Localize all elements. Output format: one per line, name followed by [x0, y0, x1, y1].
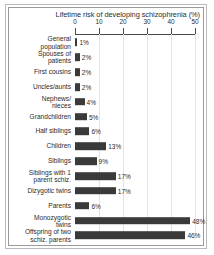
bar: [75, 128, 89, 136]
bar-row: Grandchildren5%: [75, 109, 195, 124]
bar-value-label: 17%: [118, 173, 131, 180]
category-label: Siblings: [9, 158, 71, 165]
bar: [75, 217, 190, 225]
bar-row: Spouses of patients2%: [75, 50, 195, 65]
bar-value-label: 17%: [118, 187, 131, 194]
bar-value-label: 48%: [192, 217, 205, 224]
category-label: General population: [9, 35, 71, 49]
bar: [75, 53, 80, 61]
category-label: Offspring of two schiz. parents: [9, 228, 71, 242]
category-label: Siblings with 1 parent schiz.: [9, 169, 71, 183]
category-label: First cousins: [9, 69, 71, 76]
category-label: Monozygotic twins: [9, 213, 71, 227]
bar-row: Monozygotic twins48%: [75, 213, 195, 228]
x-tick-label-0: 0: [73, 18, 77, 25]
bar-row: Offspring of two schiz. parents46%: [75, 228, 195, 243]
bar: [75, 143, 106, 151]
bar-row: First cousins2%: [75, 65, 195, 80]
category-label: Grandchildren: [9, 113, 71, 120]
category-label: Spouses of patients: [9, 50, 71, 64]
bar-row: Siblings9%: [75, 154, 195, 169]
bar: [75, 68, 80, 76]
bar-row: Uncles/aunts2%: [75, 80, 195, 95]
bar: [75, 39, 77, 47]
x-tick-label-40: 40: [167, 18, 174, 25]
bar-value-label: 2%: [82, 54, 91, 61]
bar-row: Children13%: [75, 139, 195, 154]
bar-value-label: 2%: [82, 83, 91, 90]
bar-rows: General population1%Spouses of patients2…: [75, 35, 195, 239]
bar-value-label: 9%: [99, 158, 108, 165]
bar: [75, 202, 89, 210]
bar: [75, 83, 80, 91]
bar-row: Half siblings6%: [75, 124, 195, 139]
plot-area: 01020304050 General population1%Spouses …: [75, 24, 195, 239]
x-tick-0: [75, 28, 76, 35]
bar-value-label: 13%: [108, 143, 121, 150]
bar: [75, 157, 97, 165]
x-tick-label-50: 50: [191, 18, 198, 25]
figure-frame-inner: Lifetime risk of developing schizophreni…: [8, 7, 204, 246]
bar-value-label: 6%: [91, 128, 100, 135]
gridline-50: [195, 34, 196, 239]
bar-value-label: 6%: [91, 202, 100, 209]
bar-row: Dizygotic twins17%: [75, 183, 195, 198]
bar-value-label: 2%: [82, 69, 91, 76]
bar-row: Parents6%: [75, 198, 195, 213]
bar-row: General population1%: [75, 35, 195, 50]
bar-value-label: 4%: [87, 98, 96, 105]
bar-row: Siblings with 1 parent schiz.17%: [75, 169, 195, 184]
category-label: Children: [9, 143, 71, 150]
x-tick-label-20: 20: [119, 18, 126, 25]
bar: [75, 113, 87, 121]
bar: [75, 232, 185, 240]
x-tick-label-10: 10: [95, 18, 102, 25]
bar: [75, 187, 116, 195]
category-label: Parents: [9, 202, 71, 209]
bar-value-label: 46%: [187, 232, 200, 239]
category-label: Uncles/aunts: [9, 83, 71, 90]
x-tick-label-30: 30: [143, 18, 150, 25]
bar-value-label: 1%: [79, 39, 88, 46]
bar-chart: Lifetime risk of developing schizophreni…: [9, 8, 203, 245]
figure-frame-outer: Lifetime risk of developing schizophreni…: [5, 4, 207, 249]
bar: [75, 98, 85, 106]
category-label: Nephews/ nieces: [9, 95, 71, 109]
category-label: Half siblings: [9, 128, 71, 135]
bar-value-label: 5%: [89, 113, 98, 120]
category-label: Dizygotic twins: [9, 187, 71, 194]
bar-row: Nephews/ nieces4%: [75, 94, 195, 109]
bar: [75, 172, 116, 180]
